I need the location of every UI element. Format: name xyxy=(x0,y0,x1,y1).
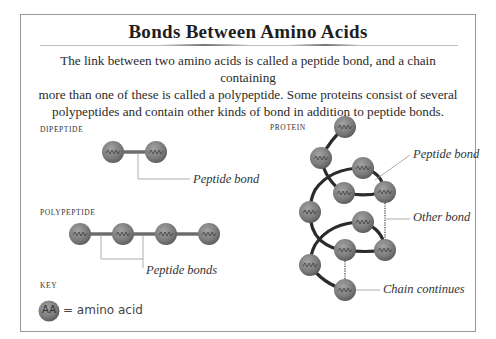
amino-acid-node xyxy=(299,254,321,276)
amino-acid-node xyxy=(333,182,355,204)
protein-diagram xyxy=(299,116,410,301)
amino-acid-node xyxy=(112,223,134,245)
amino-acid-node xyxy=(102,141,124,163)
diagram-graphics xyxy=(0,0,496,339)
dipeptide-diagram xyxy=(102,141,190,179)
polypeptide-diagram xyxy=(69,223,220,268)
amino-acid-node xyxy=(198,223,220,245)
amino-acid-node xyxy=(374,239,396,261)
amino-acid-node xyxy=(299,201,321,223)
key-symbol-label: AA xyxy=(39,304,59,315)
amino-acid-node xyxy=(155,223,177,245)
amino-acid-node xyxy=(334,239,356,261)
amino-acid-node xyxy=(334,279,356,301)
amino-acid-node xyxy=(374,181,396,203)
amino-acid-node xyxy=(352,157,374,179)
amino-acid-node xyxy=(145,141,167,163)
amino-acid-node xyxy=(310,147,332,169)
amino-acid-node xyxy=(69,223,91,245)
amino-acid-node xyxy=(352,211,374,233)
amino-acid-node xyxy=(334,116,356,138)
